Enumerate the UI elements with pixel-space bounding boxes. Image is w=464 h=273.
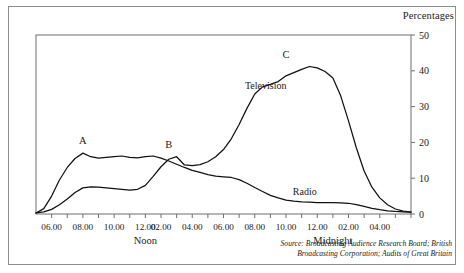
x-tick-label-8: 10.00 bbox=[276, 222, 297, 232]
x-tick-label-9: 12.00 bbox=[307, 222, 328, 232]
x-tick-label-10: 02.00 bbox=[338, 222, 359, 232]
source-line-1: Source: Broadcasting Audience Research B… bbox=[222, 239, 452, 249]
y-tick-label-50: 50 bbox=[419, 30, 429, 41]
source-line-2: Broadcasting Corporation; Audits of Grea… bbox=[222, 249, 452, 259]
series-line-radio bbox=[36, 153, 411, 213]
y-tick-label-20: 20 bbox=[419, 137, 429, 148]
chart-plot: 0102030405006.0008.0010.0012.0002.0004.0… bbox=[0, 0, 464, 273]
annotation-A: A bbox=[79, 135, 87, 146]
x-tick-label-6: 06.00 bbox=[213, 222, 234, 232]
period-label-noon: Noon bbox=[134, 235, 158, 246]
series-line-television bbox=[36, 67, 411, 213]
annotation-C: C bbox=[282, 49, 289, 60]
x-tick-label-5: 04.00 bbox=[182, 222, 203, 232]
source-note: Source: Broadcasting Audience Research B… bbox=[222, 239, 452, 260]
chart-figure: Percentages 0102030405006.0008.0010.0012… bbox=[0, 0, 464, 273]
x-tick-label-1: 08.00 bbox=[73, 222, 94, 232]
series-label-television: Television bbox=[245, 80, 287, 91]
series-label-radio: Radio bbox=[293, 186, 317, 197]
y-tick-label-0: 0 bbox=[419, 209, 424, 220]
y-tick-label-30: 30 bbox=[419, 101, 429, 112]
x-tick-label-4: 02.00 bbox=[151, 222, 172, 232]
x-tick-label-0: 06.00 bbox=[41, 222, 62, 232]
x-tick-label-7: 08.00 bbox=[244, 222, 265, 232]
x-tick-label-2: 10.00 bbox=[104, 222, 125, 232]
x-tick-label-11: 04.00 bbox=[369, 222, 390, 232]
y-tick-label-10: 10 bbox=[419, 173, 429, 184]
y-tick-label-40: 40 bbox=[419, 65, 429, 76]
annotation-B: B bbox=[165, 139, 172, 150]
